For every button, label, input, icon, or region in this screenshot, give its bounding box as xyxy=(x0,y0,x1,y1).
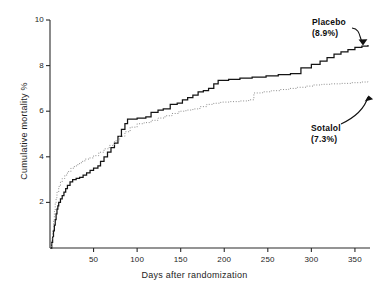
x-tick-label: 200 xyxy=(209,255,239,264)
x-tick-label: 100 xyxy=(122,255,152,264)
x-axis-title: Days after randomization xyxy=(0,270,389,280)
y-tick-label: 10 xyxy=(16,15,44,24)
y-tick-marks xyxy=(46,20,50,202)
x-tick-label: 150 xyxy=(166,255,196,264)
sotalol-arrowhead-icon xyxy=(365,95,373,101)
sotalol-leader-line xyxy=(341,97,368,124)
x-tick-label: 350 xyxy=(340,255,370,264)
placebo-leader xyxy=(352,28,367,46)
placebo-arrowhead-icon xyxy=(359,39,368,45)
series-line-sotalol xyxy=(50,82,368,248)
chart-plot-area xyxy=(0,0,389,293)
sotalol-leader xyxy=(341,95,373,124)
x-tick-marks xyxy=(94,248,355,252)
chart-figure: 246810 50100150200250300350 Days after r… xyxy=(0,0,389,293)
series-line-placebo xyxy=(50,45,368,248)
x-tick-label: 50 xyxy=(79,255,109,264)
placebo-value: (8.9%) xyxy=(312,28,346,39)
sotalol-annotation: Sotalol (7.3%) xyxy=(311,123,341,144)
sotalol-value: (7.3%) xyxy=(311,134,341,145)
y-axis-title: Cumulative mortality % xyxy=(19,51,29,211)
data-series-group xyxy=(50,45,368,248)
x-tick-label: 250 xyxy=(253,255,283,264)
placebo-annotation: Placebo (8.9%) xyxy=(312,17,346,38)
sotalol-label: Sotalol xyxy=(311,123,341,134)
x-tick-label: 300 xyxy=(296,255,326,264)
placebo-label: Placebo xyxy=(312,17,346,28)
